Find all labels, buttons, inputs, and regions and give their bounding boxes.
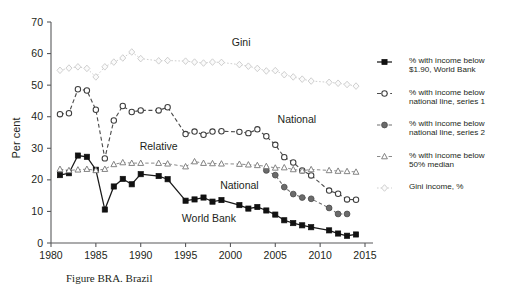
- data-point-marker: [335, 191, 340, 196]
- data-point-marker: [183, 131, 188, 136]
- y-axis-tick-label: 40: [31, 110, 43, 122]
- data-point-marker: [84, 154, 89, 159]
- data-point-marker: [344, 197, 349, 202]
- legend-label-line2: 50% median: [409, 160, 454, 169]
- series-callout-label-5: World Bank: [182, 212, 237, 224]
- data-point-marker: [237, 129, 242, 134]
- data-point-marker: [156, 108, 161, 113]
- data-point-marker: [282, 218, 287, 223]
- y-axis-tick-label: 70: [31, 16, 43, 28]
- data-point-marker: [138, 108, 143, 113]
- caption-layer: Figure BRA. Brazil: [66, 272, 152, 284]
- data-point-marker: [138, 172, 143, 177]
- x-axis-tick-label: 1980: [39, 249, 63, 261]
- data-point-marker: [165, 105, 170, 110]
- data-point-marker: [273, 142, 278, 147]
- data-point-marker: [326, 205, 332, 211]
- data-point-marker: [255, 204, 260, 209]
- x-axis-tick-label: 2015: [353, 249, 377, 261]
- data-point-marker: [57, 111, 62, 116]
- data-point-marker: [246, 130, 251, 135]
- data-point-marker: [111, 184, 116, 189]
- data-point-marker: [327, 228, 332, 233]
- data-point-marker: [309, 225, 314, 230]
- chart-canvas: 0102030405060701980198519901995200020052…: [0, 0, 525, 295]
- series-callout-label-4: National: [220, 179, 259, 191]
- data-point-marker: [75, 153, 80, 158]
- legend-label-line1: % with income below: [409, 88, 485, 97]
- data-point-marker: [291, 221, 296, 226]
- y-axis-tick-label: 30: [31, 142, 43, 154]
- data-point-marker: [308, 173, 313, 178]
- data-point-marker: [192, 197, 197, 202]
- data-point-marker: [308, 196, 314, 202]
- data-point-marker: [273, 212, 278, 217]
- data-point-marker: [102, 156, 107, 161]
- data-point-marker: [264, 208, 269, 213]
- series-callout-label-3: Relative: [140, 140, 178, 152]
- data-point-marker: [382, 122, 388, 128]
- series-callout-label-1: Gini: [232, 36, 251, 48]
- legend-label-line1: % with income below: [409, 119, 485, 128]
- data-point-marker: [299, 195, 305, 201]
- data-point-marker: [219, 129, 224, 134]
- data-point-marker: [183, 198, 188, 203]
- legend-label-line1: % with income below: [409, 151, 485, 160]
- data-point-marker: [281, 184, 287, 190]
- data-point-marker: [192, 129, 197, 134]
- legend-label-line1: Gini income, %: [409, 182, 463, 191]
- data-point-marker: [57, 173, 62, 178]
- data-point-marker: [75, 87, 80, 92]
- figure-caption: Figure BRA. Brazil: [66, 272, 152, 284]
- data-point-marker: [156, 173, 161, 178]
- data-point-marker: [282, 154, 287, 159]
- x-axis-tick-label: 1995: [174, 249, 198, 261]
- data-point-marker: [66, 111, 71, 116]
- data-point-marker: [335, 211, 341, 217]
- data-point-marker: [111, 118, 116, 123]
- data-point-marker: [120, 176, 125, 181]
- y-axis-tick-label: 0: [37, 237, 43, 249]
- y-axis-tick-label: 60: [31, 47, 43, 59]
- x-axis-tick-label: 2005: [264, 249, 288, 261]
- y-axis-title: Per cent: [10, 118, 22, 159]
- data-point-marker: [246, 206, 251, 211]
- plot-background: [0, 0, 525, 295]
- legend-label-line1: % with income below: [409, 56, 485, 65]
- x-axis-tick-label: 1985: [84, 249, 108, 261]
- figure-container: 0102030405060701980198519901995200020052…: [0, 0, 525, 295]
- data-point-marker: [272, 172, 278, 178]
- data-point-marker: [201, 195, 206, 200]
- data-point-marker: [210, 129, 215, 134]
- y-axis-tick-label: 50: [31, 79, 43, 91]
- legend-label-line2: national line, series 1: [409, 97, 486, 106]
- data-point-marker: [201, 132, 206, 137]
- series-callout-label-2: National: [278, 113, 317, 125]
- x-axis-tick-label: 2000: [219, 249, 243, 261]
- data-point-marker: [335, 231, 340, 236]
- data-point-marker: [255, 127, 260, 132]
- legend-label-line2: $1.90, World Bank: [409, 65, 476, 74]
- data-point-marker: [120, 103, 125, 108]
- x-axis-tick-label: 1990: [129, 249, 153, 261]
- data-point-marker: [353, 232, 358, 237]
- data-point-marker: [129, 182, 134, 187]
- data-point-marker: [219, 197, 224, 202]
- data-point-marker: [300, 223, 305, 228]
- legend-label-line2: national line, series 2: [409, 128, 486, 137]
- data-point-marker: [84, 88, 89, 93]
- data-point-marker: [344, 233, 349, 238]
- data-point-marker: [165, 177, 170, 182]
- data-point-marker: [290, 191, 296, 197]
- data-point-marker: [344, 211, 350, 217]
- data-point-marker: [102, 207, 107, 212]
- y-axis-tick-label: 20: [31, 173, 43, 185]
- data-point-marker: [326, 188, 331, 193]
- data-point-marker: [353, 197, 358, 202]
- data-point-marker: [237, 203, 242, 208]
- x-axis-tick-label: 2010: [308, 249, 332, 261]
- data-point-marker: [210, 199, 215, 204]
- data-point-marker: [129, 109, 134, 114]
- data-point-marker: [382, 59, 387, 64]
- data-point-marker: [382, 91, 387, 96]
